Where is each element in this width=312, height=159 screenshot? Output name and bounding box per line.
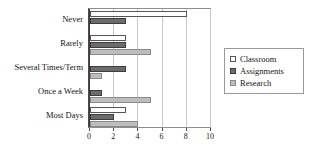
legend-swatch-research-icon	[230, 80, 236, 86]
bar-research	[90, 49, 151, 55]
bar-assignments	[90, 90, 102, 96]
category-label: Rarely	[0, 39, 83, 48]
legend-swatch-classroom-icon	[230, 56, 236, 62]
tick-mark	[186, 128, 187, 131]
x-axis-tick-label: 2	[111, 132, 115, 141]
x-axis-tick-label: 10	[206, 132, 214, 141]
bar-classroom	[90, 11, 187, 17]
bar-research	[90, 73, 102, 79]
bar-assignments	[90, 42, 126, 48]
category-label: Once a Week	[0, 87, 83, 96]
bar-chart: NeverRarelySeveral Times/TermOnce a Week…	[0, 0, 312, 159]
gridline	[210, 9, 211, 127]
legend-swatch-assignments-icon	[230, 68, 236, 74]
y-axis-category-labels: NeverRarelySeveral Times/TermOnce a Week…	[0, 8, 86, 128]
legend-item-label: Assignments	[240, 66, 284, 76]
category-label: Several Times/Term	[0, 63, 83, 72]
tick-mark	[210, 128, 211, 131]
x-axis-tick-label: 0	[87, 132, 91, 141]
x-axis-ticks: 0246810	[88, 128, 211, 144]
x-axis-tick-label: 8	[184, 132, 188, 141]
tick-mark	[113, 128, 114, 131]
bar-assignments	[90, 18, 126, 24]
bar-group	[90, 57, 210, 81]
legend-item-label: Classroom	[240, 54, 276, 64]
bar-research	[90, 97, 151, 103]
x-axis-tick-label: 6	[160, 132, 164, 141]
tick-mark	[89, 128, 90, 131]
bar-assignments	[90, 66, 126, 72]
legend-item[interactable]: Classroom	[230, 53, 299, 65]
category-label: Most Days	[0, 111, 83, 120]
legend-item[interactable]: Assignments	[230, 65, 299, 77]
bar-group	[90, 105, 210, 129]
bar-group	[90, 33, 210, 57]
chart-legend: ClassroomAssignmentsResearch	[224, 48, 304, 94]
bar-assignments	[90, 114, 114, 120]
bar-group	[90, 81, 210, 105]
category-label: Never	[0, 15, 83, 24]
bar-classroom	[90, 107, 126, 113]
bar-research	[90, 121, 138, 127]
legend-item[interactable]: Research	[230, 77, 299, 89]
legend-item-label: Research	[240, 78, 271, 88]
bar-classroom	[90, 35, 126, 41]
plot-area	[88, 8, 211, 128]
x-axis-tick-label: 4	[135, 132, 139, 141]
tick-mark	[162, 128, 163, 131]
bar-group	[90, 9, 210, 33]
tick-mark	[137, 128, 138, 131]
